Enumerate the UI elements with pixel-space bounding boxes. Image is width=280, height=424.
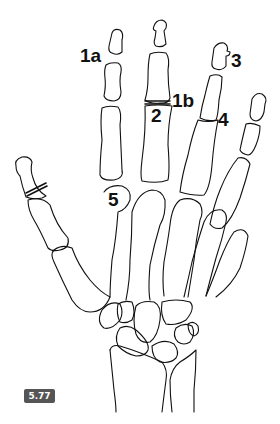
index-finger [100,29,123,180]
thumb [16,157,110,312]
middle-finger [141,20,172,182]
figure-number-badge: 5.77 [24,389,55,403]
label-1a: 1a [80,46,101,65]
label-2: 2 [151,106,162,125]
label-5: 5 [108,190,119,209]
label-1b: 1b [172,91,194,110]
metacarpals [104,186,248,300]
label-3: 3 [231,51,242,70]
forearm-bones [110,346,196,413]
carpal-bones [99,300,198,363]
label-4: 4 [218,110,229,129]
